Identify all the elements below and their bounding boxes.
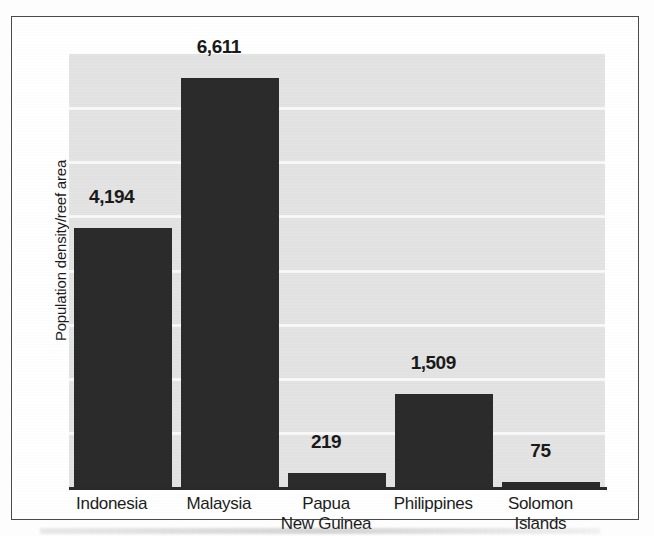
- category-label: Indonesia: [50, 494, 173, 514]
- bar-value-label: 75: [491, 440, 589, 462]
- category-label-line: Philippines: [372, 494, 495, 514]
- figure-container: Population density/reef area 4,1946,6112…: [0, 0, 654, 536]
- category-label: Malaysia: [157, 494, 280, 514]
- bar: [395, 394, 493, 487]
- bar-value-label: 1,509: [384, 352, 482, 374]
- gridline: [69, 107, 605, 110]
- category-label-line: Solomon: [479, 494, 602, 514]
- y-axis-label: Population density/reef area: [52, 141, 69, 361]
- category-label-line: Indonesia: [50, 494, 173, 514]
- bar-value-label: 4,194: [63, 186, 161, 208]
- bar: [74, 228, 172, 487]
- x-axis-line: [69, 487, 607, 490]
- chart-frame-border: Population density/reef area 4,1946,6112…: [11, 16, 639, 520]
- bar-value-label: 219: [277, 431, 375, 453]
- bar: [288, 473, 386, 487]
- category-label: Philippines: [372, 494, 495, 514]
- bar-value-label: 6,611: [170, 36, 268, 58]
- gridline: [69, 161, 605, 164]
- gridline: [69, 215, 605, 218]
- bar: [181, 78, 279, 487]
- plot-area: [69, 54, 605, 487]
- category-label-line: Papua: [264, 494, 387, 514]
- category-label-line: Malaysia: [157, 494, 280, 514]
- scan-artifact: [40, 528, 600, 534]
